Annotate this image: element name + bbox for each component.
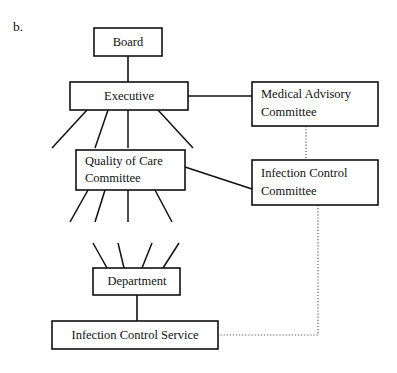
node-label-medical-advisory-committee-line2: Committee [261, 105, 317, 119]
connector-quality-of-care-to-infection-control-committee [185, 167, 252, 189]
node-executive[interactable]: Executive [70, 82, 188, 110]
node-label-executive: Executive [104, 89, 154, 103]
dotted-connector-infection-control-committee-to-service [218, 205, 318, 335]
dotted-connector-group [218, 126, 318, 335]
node-label-department: Department [107, 274, 167, 288]
organizational-chart-figure: b. [0, 0, 397, 373]
fan-line [95, 110, 108, 148]
panel-label: b. [13, 19, 23, 34]
fan-line [93, 243, 107, 268]
fan-line [158, 110, 193, 148]
node-medical-advisory-committee[interactable]: Medical Advisory Committee [252, 82, 378, 126]
fan-line [52, 110, 87, 148]
department-parents-fan [93, 243, 179, 268]
node-board[interactable]: Board [94, 28, 162, 56]
fan-line [70, 190, 88, 222]
node-label-quality-of-care-committee-line1: Quality of Care [85, 154, 163, 168]
fan-line [163, 243, 179, 268]
node-infection-control-service[interactable]: Infection Control Service [52, 321, 218, 349]
quality-of-care-subordinates-fan [70, 190, 172, 222]
node-label-medical-advisory-committee-line1: Medical Advisory [261, 87, 352, 101]
node-label-infection-control-committee-line1: Infection Control [261, 166, 348, 180]
executive-subordinates-fan [52, 110, 193, 148]
node-label-board: Board [113, 35, 144, 49]
node-label-infection-control-committee-line2: Committee [261, 184, 317, 198]
fan-line [95, 190, 105, 222]
node-quality-of-care-committee[interactable]: Quality of Care Committee [76, 150, 185, 190]
org-chart-canvas: b. [0, 0, 397, 373]
node-label-infection-control-service: Infection Control Service [71, 328, 198, 342]
fan-line [155, 190, 172, 222]
fan-line [142, 243, 152, 268]
fan-line [118, 243, 124, 268]
node-label-quality-of-care-committee-line2: Committee [85, 171, 141, 185]
node-department[interactable]: Department [93, 268, 180, 295]
node-infection-control-committee[interactable]: Infection Control Committee [252, 160, 378, 205]
